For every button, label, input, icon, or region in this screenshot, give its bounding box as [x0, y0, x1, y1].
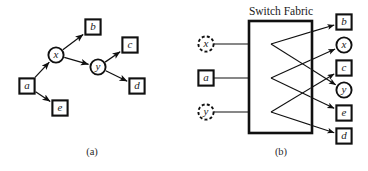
fabric-input-in-x[interactable]: x	[198, 36, 213, 51]
edge-y-to-c	[105, 52, 120, 62]
node-label-x: x	[53, 48, 59, 60]
node-label-c: c	[128, 38, 133, 50]
node-label-out-y: y	[341, 83, 347, 95]
node-label-out-d: d	[341, 129, 347, 141]
node-label-a: a	[24, 79, 30, 91]
output-link-in-y-to-out-c	[312, 74, 334, 87]
node-label-out-e: e	[342, 106, 347, 118]
edge-y-to-d	[106, 71, 127, 81]
fabric-output-out-b[interactable]: b	[336, 14, 351, 29]
output-link-in-y-to-out-d	[312, 125, 334, 132]
panel-a-node-layer: axybcde	[19, 19, 144, 115]
figure-container: axybcde (a) xaybxcyed Switch Fabric (b)	[0, 0, 368, 171]
output-link-in-x-to-out-b	[312, 25, 334, 32]
node-label-b: b	[90, 20, 96, 32]
panel-a-caption: (a)	[86, 146, 98, 158]
edge-x-to-y	[64, 57, 88, 64]
output-link-in-a-to-out-e	[312, 98, 334, 109]
panel-a-edge-layer	[35, 34, 127, 101]
graph-node-a[interactable]: a	[19, 78, 34, 93]
fabric-output-out-e[interactable]: e	[336, 105, 351, 120]
edge-a-to-e	[36, 92, 51, 102]
fabric-input-in-a[interactable]: a	[198, 70, 213, 85]
node-label-y: y	[95, 60, 101, 72]
switch-fabric-title: Switch Fabric	[249, 5, 313, 17]
panel-b: xaybxcyed Switch Fabric (b)	[198, 5, 351, 158]
graph-node-e[interactable]: e	[52, 100, 67, 115]
node-label-in-x: x	[203, 37, 209, 49]
panel-b-caption: (b)	[275, 146, 288, 158]
graph-node-b[interactable]: b	[85, 19, 100, 34]
graph-node-d[interactable]: d	[129, 78, 144, 93]
node-label-in-y: y	[203, 105, 209, 117]
switch-fabric-box	[249, 21, 312, 133]
panel-a: axybcde (a)	[19, 19, 144, 158]
graph-node-x[interactable]: x	[48, 47, 63, 62]
node-label-in-a: a	[203, 71, 209, 83]
output-link-in-a-to-out-x	[312, 49, 335, 59]
edge-a-to-x	[35, 62, 49, 77]
fabric-input-in-y[interactable]: y	[198, 104, 213, 119]
edge-x-to-b	[63, 34, 83, 49]
node-label-out-x: x	[341, 38, 347, 50]
output-link-in-x-to-out-y	[312, 70, 336, 85]
fabric-output-out-x[interactable]: x	[336, 37, 351, 52]
graph-node-c[interactable]: c	[122, 37, 137, 52]
fabric-output-out-y[interactable]: y	[336, 82, 351, 97]
fabric-output-out-c[interactable]: c	[336, 60, 351, 75]
node-label-e: e	[58, 101, 63, 113]
fabric-output-out-d[interactable]: d	[336, 128, 351, 143]
node-label-out-c: c	[342, 61, 347, 73]
graph-node-y[interactable]: y	[90, 59, 105, 74]
node-label-d: d	[134, 79, 140, 91]
node-label-out-b: b	[341, 15, 347, 27]
figure-svg: axybcde (a) xaybxcyed Switch Fabric (b)	[0, 0, 368, 171]
